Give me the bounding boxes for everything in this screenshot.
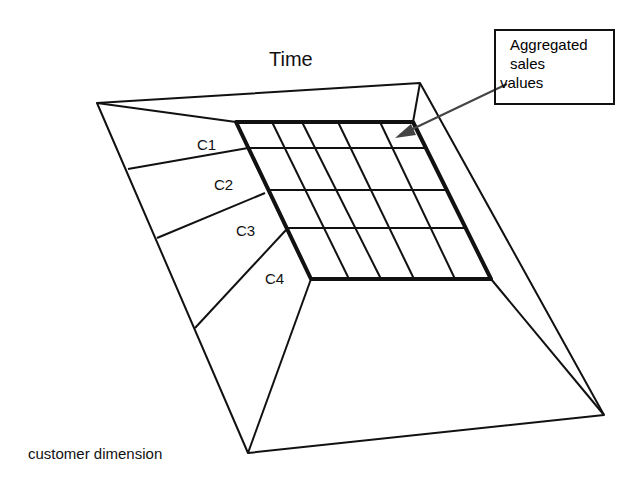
customer-dimension-label: customer dimension (28, 446, 162, 461)
customer-label-c4: C4 (265, 271, 284, 286)
sales-grid (236, 122, 491, 279)
customer-label-c3: C3 (236, 223, 255, 238)
callout-line-2: sales (510, 54, 613, 73)
customer-label-c1: C1 (197, 137, 216, 152)
customer-label-c2: C2 (214, 177, 233, 192)
time-axis-label: Time (269, 49, 313, 69)
callout-line-1: Aggregated (510, 35, 613, 54)
outer-frame (97, 83, 604, 453)
callout-line-3: values (500, 73, 613, 92)
aggregated-sales-callout: Aggregated sales values (494, 29, 615, 105)
